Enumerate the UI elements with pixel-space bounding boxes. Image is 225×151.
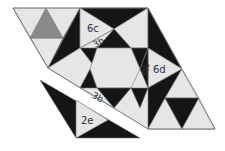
label-2e: 2e xyxy=(81,115,94,126)
upper-parallelogram xyxy=(13,8,215,129)
label-6c: 6c xyxy=(87,23,99,34)
label-6d: 6d xyxy=(153,64,166,75)
label-3b-right: 3b xyxy=(140,63,150,75)
central-hexagon xyxy=(90,48,140,88)
tiling-diagram: 6c 3b 3b 6d 3b 2e xyxy=(0,0,225,151)
